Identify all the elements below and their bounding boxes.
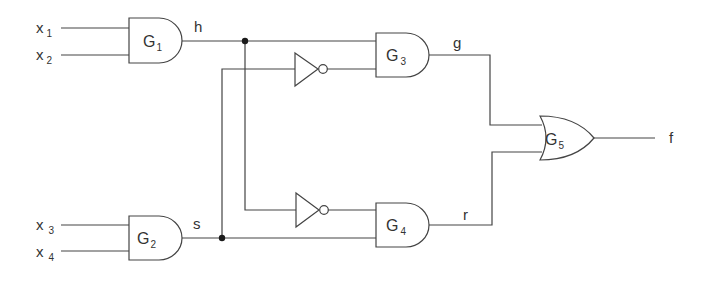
wire-g: g [429, 34, 542, 125]
logic-circuit-diagram: x1 x2 x3 x4 G1 G2 h s G [0, 0, 709, 286]
junction-dot-h [242, 38, 248, 44]
signal-label-h: h [194, 18, 202, 35]
input-labels: x1 x2 x3 x4 [36, 19, 55, 263]
inverter-n2 [296, 193, 376, 227]
and-gate-shape [376, 33, 429, 77]
signal-label-g: g [453, 34, 461, 51]
inversion-bubble [319, 65, 328, 74]
input-label-x2: x2 [36, 46, 53, 66]
and-gate-shape [129, 18, 182, 63]
gate-g5-or: G5 [540, 116, 594, 160]
signal-label-f: f [669, 129, 674, 146]
wire-r-path [429, 152, 542, 225]
wire-h: h [182, 18, 376, 210]
gate-g3-and: G3 [376, 33, 429, 77]
wire-s: s [182, 69, 376, 241]
not-gate-shape [296, 193, 319, 227]
input-label-x4: x4 [36, 243, 55, 263]
wire-r: r [429, 152, 542, 225]
inverter-n1 [295, 53, 376, 86]
input-label-x3: x3 [36, 216, 55, 236]
wire-g-path [429, 55, 542, 125]
wire-s-to-inverter-1 [222, 69, 296, 238]
signal-label-r: r [463, 206, 468, 223]
wire-h-to-inverter-2 [245, 41, 296, 210]
junction-dot-s [219, 235, 225, 241]
inversion-bubble [320, 206, 329, 215]
gate-g2-and: G2 [129, 216, 182, 260]
input-label-x1: x1 [36, 19, 53, 39]
gate-g1-and: G1 [129, 18, 182, 63]
signal-label-s: s [193, 215, 201, 232]
input-wires [61, 28, 129, 251]
not-gate-shape [295, 53, 318, 86]
output-f: f [594, 129, 674, 146]
gate-g4-and: G4 [376, 203, 429, 247]
and-gate-shape [376, 203, 429, 247]
